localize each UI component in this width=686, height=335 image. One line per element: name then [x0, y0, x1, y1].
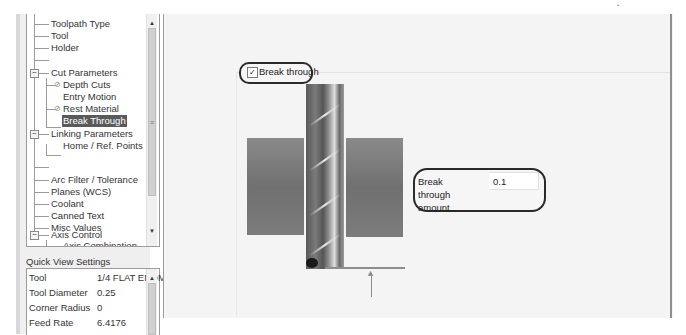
tool-flute: [309, 233, 341, 256]
qv-label: Tool Diameter: [29, 287, 88, 298]
break-through-amount-highlight: Break through amount 0.1: [413, 168, 546, 212]
qv-label: Feed Rate: [29, 317, 73, 328]
tree-connector: [39, 235, 49, 236]
tree-item-cut-parameters[interactable]: Cut Parameters: [51, 67, 118, 79]
tree-connector: [47, 155, 61, 156]
qv-label: Tool: [29, 272, 46, 283]
tree-connector: [35, 36, 49, 37]
break-through-amount-label: Break through amount: [418, 175, 470, 214]
endmill-tool-illustration: [306, 84, 344, 269]
tree-item-home-ref-points[interactable]: Home / Ref. Points: [63, 140, 143, 152]
disabled-icon: ⊘: [54, 103, 61, 115]
tree-branch-line: [46, 240, 47, 246]
tree-item-entry-motion[interactable]: Entry Motion: [63, 91, 116, 103]
break-through-checkbox-highlight: ✓ Break through: [239, 62, 313, 84]
tree-item-break-through[interactable]: Break Through: [62, 115, 127, 127]
tool-flute: [309, 193, 341, 216]
scroll-grip-icon: ≡: [149, 119, 155, 126]
collapse-axis-control-icon[interactable]: −: [30, 231, 39, 240]
tree-connector: [35, 228, 49, 229]
tree-item-rest-material[interactable]: Rest Material: [63, 103, 119, 115]
qv-row-tool-diameter: Tool Diameter 0.25: [29, 286, 88, 300]
tree-connector: [35, 180, 49, 181]
tree-item-depth-cuts[interactable]: Depth Cuts: [63, 79, 111, 91]
arrow-up-icon: ▲: [366, 268, 375, 278]
quick-view-settings-title: Quick View Settings: [26, 256, 110, 267]
tree-connector: [39, 73, 49, 74]
tree-item-planes-wcs[interactable]: Planes (WCS): [51, 186, 111, 198]
quick-view-scrollbar[interactable]: ▲: [146, 269, 157, 335]
page-border: [670, 14, 672, 319]
disabled-icon: ⊘: [54, 79, 61, 91]
tree-connector: [35, 216, 49, 217]
tree-item-holder[interactable]: Holder: [51, 42, 79, 54]
tree-connector: [35, 204, 49, 205]
tree-item-arc-filter-tolerance[interactable]: Arc Filter / Tolerance: [51, 174, 138, 186]
tree-connector: [35, 24, 49, 25]
tree-item-tool[interactable]: Tool: [51, 30, 68, 42]
tree-connector: [35, 60, 49, 61]
collapse-cut-parameters-icon[interactable]: −: [30, 69, 39, 78]
tree-connector: [35, 48, 49, 49]
panel-edge: [16, 14, 20, 334]
qv-value: 6.4176: [97, 316, 126, 330]
scroll-up-icon[interactable]: ▲: [147, 18, 157, 28]
tool-flute: [309, 148, 341, 171]
qv-row-feed-rate: Feed Rate 6.4176: [29, 316, 73, 330]
scroll-up-icon[interactable]: ▲: [147, 273, 157, 283]
qv-value: 0: [97, 301, 102, 315]
page-bottom-margin: [163, 318, 673, 334]
stock-block-left: [247, 138, 304, 235]
break-through-amount-input[interactable]: 0.1: [489, 172, 539, 190]
group-divider: [236, 72, 237, 317]
tree-scrollbar[interactable]: ▲ ≡ ▼: [146, 14, 157, 246]
tool-flute: [309, 103, 341, 126]
qv-row-tool: Tool 1/4 FLAT ENDM: [29, 271, 46, 285]
quick-view-settings-list: Tool 1/4 FLAT ENDM Tool Diameter 0.25 Co…: [26, 268, 160, 335]
tree-item-coolant[interactable]: Coolant: [51, 198, 84, 210]
break-through-checkbox[interactable]: ✓: [247, 67, 258, 78]
tree-connector: [39, 134, 49, 135]
tree-item-canned-text[interactable]: Canned Text: [51, 210, 104, 222]
tool-tip: [306, 258, 318, 268]
scroll-thumb[interactable]: ≡: [148, 28, 156, 196]
scroll-down-icon[interactable]: ▼: [147, 226, 157, 236]
scroll-thumb[interactable]: [148, 283, 156, 335]
tree-connector: [35, 192, 49, 193]
tree-item-axis-combination[interactable]: Axis Combination: [63, 240, 137, 247]
parameter-tree: Toolpath Type Tool Holder − Cut Paramete…: [26, 14, 160, 247]
tree-connector: [35, 167, 49, 168]
stock-block-right: [346, 138, 403, 237]
break-through-reference-line: [325, 267, 405, 269]
decoration-icon: •: [612, 2, 624, 8]
qv-value: 0.25: [97, 286, 116, 300]
break-through-checkbox-label[interactable]: Break through: [259, 66, 319, 77]
qv-row-corner-radius: Corner Radius 0: [29, 301, 90, 315]
collapse-linking-parameters-icon[interactable]: −: [30, 130, 39, 139]
tree-item-toolpath-type[interactable]: Toolpath Type: [51, 18, 110, 30]
tree-item-linking-parameters[interactable]: Linking Parameters: [51, 128, 133, 140]
qv-label: Corner Radius: [29, 302, 90, 313]
